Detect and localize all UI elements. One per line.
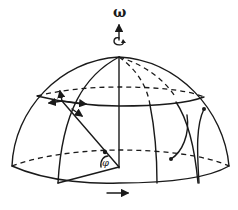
omega-label: ω — [113, 4, 126, 20]
diagram-canvas — [0, 0, 238, 210]
phi-label: φ — [102, 157, 109, 168]
latitude-angle-construction — [58, 101, 119, 183]
equator-back — [12, 150, 229, 166]
deflection-paths — [169, 107, 206, 183]
rotation-axis — [114, 25, 126, 168]
hemisphere-diagram: ω φ — [0, 0, 238, 210]
latitude-circle — [37, 87, 204, 106]
